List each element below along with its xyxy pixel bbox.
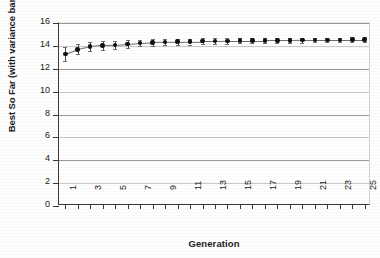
gridline [59,92,369,93]
x-axis-tick [240,204,241,209]
x-axis-tick [103,204,104,209]
error-bar-cap [101,50,105,51]
error-bar-cap [88,42,92,43]
error-bar-cap [63,47,67,48]
y-axis-tick-label: 8 [26,108,50,118]
gridline [59,115,369,116]
error-bar-cap [113,49,117,50]
error-bar-cap [350,42,354,43]
plot-area [58,22,370,205]
y-axis-tick-label: 4 [26,153,50,163]
data-point-marker [288,38,293,43]
data-point-marker [213,39,218,44]
y-axis-tick-label: 10 [26,85,50,95]
data-point-marker [225,39,230,44]
x-axis-tick-label: 13 [218,180,228,190]
gridline [59,46,369,47]
data-point-marker [238,38,243,43]
y-axis-tick [53,46,59,47]
error-bar-cap [363,42,367,43]
x-axis-tick-label: 19 [293,180,303,190]
x-axis-tick [252,204,253,209]
error-bar-cap [138,46,142,47]
y-axis-tick-label: 6 [26,130,50,140]
x-axis-tick-label: 23 [343,180,353,190]
x-axis-tick-label: 3 [93,185,103,190]
gridline [59,69,369,70]
error-bar-cap [288,43,292,44]
x-axis-tick-label: 11 [193,181,203,190]
y-axis-tick [53,160,59,161]
x-axis-tick-label: 9 [168,185,178,190]
data-point-marker [175,39,180,44]
error-bar-cap [338,42,342,43]
error-bar-cap [151,46,155,47]
y-axis-tick [53,137,59,138]
x-axis-tick [302,204,303,209]
error-bar-cap [126,40,130,41]
data-point-marker [100,43,105,48]
x-axis-tick [65,204,66,209]
data-point-marker [250,38,255,43]
x-axis-tick-label: 1 [68,185,78,190]
error-bar-cap [275,43,279,44]
error-bar-cap [225,44,229,45]
error-bar-cap [213,44,217,45]
data-point-marker [150,40,155,45]
gridline [59,137,369,138]
error-bar-cap [250,43,254,44]
x-axis-tick [115,204,116,209]
x-axis-tick [340,204,341,209]
error-bar-cap [201,44,205,45]
x-axis-tick-label: 15 [243,180,253,190]
error-bar-cap [63,61,67,62]
data-point-marker [75,47,80,52]
data-point-marker [275,38,280,43]
error-bar-cap [163,45,167,46]
error-bar-cap [113,41,117,42]
x-axis-tick [290,204,291,209]
error-bar-cap [188,45,192,46]
data-point-marker [188,39,193,44]
y-axis-tick-label: 16 [26,16,50,26]
data-point-marker [200,39,205,44]
x-axis-tick [365,204,366,209]
y-axis-tick [53,206,59,207]
x-axis-tick [90,204,91,209]
x-axis-tick-label: 5 [118,185,128,190]
y-axis-tick-label: 0 [26,199,50,209]
error-bar-cap [325,42,329,43]
error-bar-cap [88,51,92,52]
data-point-marker [163,40,168,45]
x-axis-tick-label: 17 [268,180,278,190]
x-axis-tick [265,204,266,209]
error-bar-cap [176,45,180,46]
error-bar-cap [300,43,304,44]
x-axis-tick [315,204,316,209]
x-axis-title: Generation [58,238,370,249]
data-point-marker [325,38,330,43]
gridline [59,23,369,24]
x-axis-tick [203,204,204,209]
x-axis-tick [190,204,191,209]
y-axis-title: Best So Far (with variance bars) [6,0,17,157]
y-axis-tick-label: 2 [26,176,50,186]
chart-figure: Best So Far (with variance bars) 0246810… [0,0,380,258]
x-axis-tick [140,204,141,209]
y-axis-tick-label: 14 [26,39,50,49]
x-axis-tick [128,204,129,209]
y-axis-tick-label: 12 [26,62,50,72]
y-axis-tick [53,23,59,24]
x-axis-tick [215,204,216,209]
data-point-marker [338,38,343,43]
error-bar-cap [238,43,242,44]
data-point-marker [362,37,367,42]
error-bar-cap [126,48,130,49]
x-axis-tick [178,204,179,209]
data-point-marker [63,52,68,57]
x-axis-tick-label: 7 [143,185,153,190]
error-bar-cap [263,43,267,44]
x-axis-tick [227,204,228,209]
error-bar-cap [76,54,80,55]
x-axis-tick-label: 21 [318,180,328,190]
